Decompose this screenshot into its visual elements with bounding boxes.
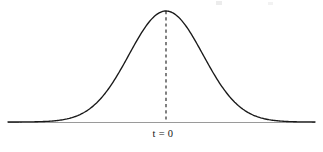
center-tick-label: t = 0 [153, 128, 174, 139]
bell-curve-path [8, 11, 315, 122]
t-distribution-figure: t = 0 [0, 0, 323, 152]
